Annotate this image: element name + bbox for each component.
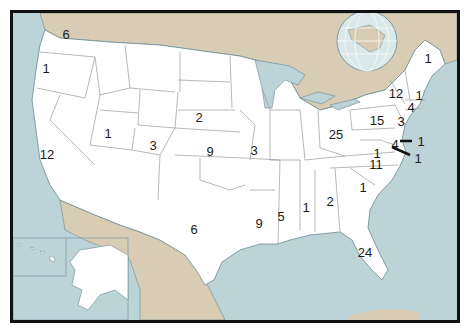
inset-alaska-hawaii (13, 238, 128, 320)
hawaii-islands (18, 244, 55, 262)
label-oregon: 1 (42, 62, 49, 75)
label-new-jersey: 3 (397, 115, 404, 128)
alaska-landmass (70, 245, 128, 310)
label-massachusetts: 1 (415, 89, 422, 102)
cuba-landmass (350, 309, 420, 320)
label-delaware: 1 (417, 135, 424, 148)
label-missouri: 3 (250, 144, 257, 157)
label-utah: 1 (104, 127, 111, 140)
label-mississippi: 5 (277, 210, 284, 223)
label-california: 12 (40, 148, 54, 161)
label-pennsylvania: 15 (370, 114, 384, 127)
label-nebraska: 2 (195, 111, 202, 124)
label-connecticut: 4 (407, 101, 414, 114)
map-graphic (13, 13, 457, 320)
label-florida: 24 (358, 246, 372, 259)
label-colorado: 3 (149, 139, 156, 152)
label-louisiana: 9 (255, 217, 262, 230)
label-georgia: 2 (326, 195, 333, 208)
label-washington: 6 (62, 28, 69, 41)
globe-inset (337, 13, 397, 71)
label-maine: 1 (424, 52, 431, 65)
label-new-york: 12 (389, 87, 403, 100)
us-map: 6 1 12 1 3 2 9 3 6 9 5 1 2 1 11 24 25 15… (10, 10, 460, 323)
label-south-carolina: 1 (359, 181, 366, 194)
label-kansas: 9 (206, 145, 213, 158)
label-virginia: 1 (373, 147, 380, 160)
label-ohio: 25 (329, 128, 343, 141)
label-maryland: 4 (391, 138, 398, 151)
label-texas: 6 (190, 223, 197, 236)
label-alabama: 1 (302, 201, 309, 214)
label-dc: 1 (414, 152, 421, 165)
